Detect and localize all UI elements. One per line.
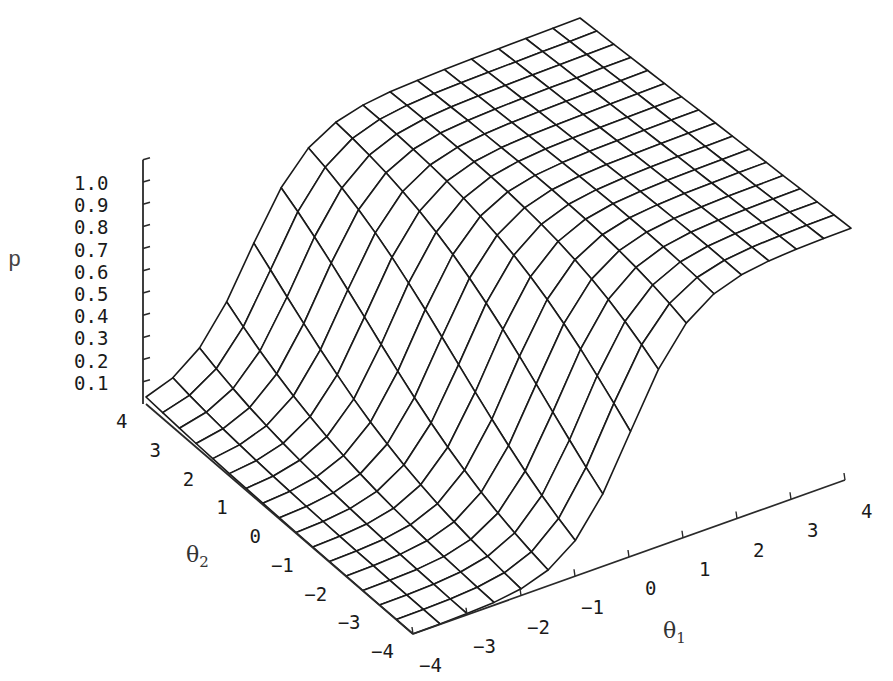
theta1-tick-label: −4 bbox=[419, 656, 442, 675]
theta2-tick-label: 2 bbox=[183, 470, 194, 489]
theta2-tick-label: 4 bbox=[116, 412, 127, 431]
theta1-axis-tick bbox=[466, 608, 467, 615]
theta1-tick-label: 3 bbox=[807, 521, 818, 540]
theta2-tick-label: −1 bbox=[271, 556, 294, 575]
theta1-tick-label: −2 bbox=[527, 618, 550, 637]
z-axis-tick bbox=[143, 247, 150, 249]
theta1-tick-label: −1 bbox=[581, 598, 604, 617]
z-axis-tick bbox=[143, 224, 150, 226]
theta1-axis-tick bbox=[628, 550, 629, 557]
z-axis-tick bbox=[143, 269, 150, 271]
theta1-axis-tick bbox=[682, 531, 683, 538]
z-axis-tick bbox=[143, 358, 150, 360]
theta1-tick-label: 0 bbox=[645, 579, 656, 598]
z-axis-tick bbox=[143, 180, 150, 182]
theta1-axis-label: θ1 bbox=[663, 620, 686, 646]
theta2-tick-label: 0 bbox=[250, 527, 261, 546]
surface-plot bbox=[0, 0, 893, 681]
z-tick-label: 1.0 bbox=[74, 174, 108, 193]
z-axis-tick bbox=[143, 380, 150, 382]
theta1-tick-label: −3 bbox=[473, 637, 496, 656]
theta2-tick-label: 1 bbox=[216, 498, 227, 517]
theta1-axis-tick bbox=[736, 512, 737, 519]
z-tick-label: 0.7 bbox=[74, 241, 108, 260]
theta2-tick-label: −2 bbox=[304, 585, 327, 604]
z-axis-label: p bbox=[8, 250, 21, 272]
z-tick-label: 0.6 bbox=[74, 263, 108, 282]
theta1-axis-tick bbox=[790, 492, 791, 499]
theta1-tick-label: 2 bbox=[753, 541, 764, 560]
z-tick-label: 0.8 bbox=[74, 218, 108, 237]
theta2-axis-label: θ2 bbox=[186, 544, 209, 570]
theta2-tick-label: −3 bbox=[338, 613, 361, 632]
theta2-tick-label: 3 bbox=[149, 441, 160, 460]
z-axis-tick bbox=[143, 335, 150, 337]
z-tick-label: 0.1 bbox=[74, 374, 108, 393]
theta2-tick-label: −4 bbox=[371, 642, 394, 661]
z-axis-tick bbox=[143, 313, 150, 315]
z-axis-tick bbox=[143, 202, 150, 204]
z-axis-tick bbox=[143, 291, 150, 293]
z-tick-label: 0.5 bbox=[74, 285, 108, 304]
theta1-axis-tick bbox=[844, 473, 845, 480]
z-tick-label: 0.3 bbox=[74, 329, 108, 348]
z-tick-label: 0.9 bbox=[74, 196, 108, 215]
theta1-axis-tick bbox=[574, 569, 575, 576]
theta1-tick-label: 4 bbox=[861, 502, 872, 521]
theta1-tick-label: 1 bbox=[699, 560, 710, 579]
theta1-axis-tick bbox=[520, 589, 521, 596]
z-tick-label: 0.2 bbox=[74, 352, 108, 371]
z-tick-label: 0.4 bbox=[74, 307, 108, 326]
z-axis-tick bbox=[143, 158, 150, 160]
